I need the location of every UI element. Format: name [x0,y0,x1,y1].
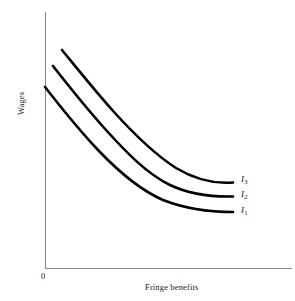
curve-label-i1: I1 [241,206,247,215]
curve-label-i2-subscript: 2 [244,193,247,200]
curve-label-i2: I2 [241,190,247,199]
curve-I3 [62,50,233,183]
y-axis-label: Wages [17,92,26,115]
x-axis-label: Fringe benefits [145,283,198,292]
curve-label-i3-subscript: 3 [244,178,247,185]
origin-label: 0 [41,272,45,281]
indifference-curve-figure: Fringe benefits Wages 0 I3 I2 I1 [0,0,295,301]
curve-I1 [45,87,233,212]
chart-canvas [0,0,295,301]
curve-label-i1-subscript: 1 [244,209,247,216]
curve-label-i3: I3 [241,175,247,184]
